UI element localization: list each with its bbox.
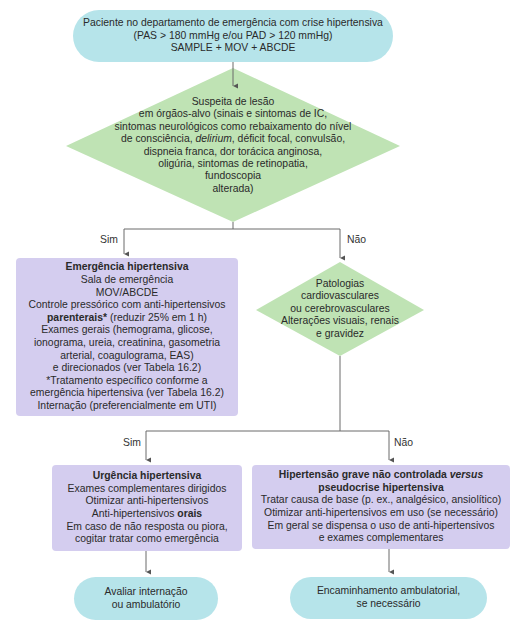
severe-title-line2: pseudocrise hipertensiva (318, 482, 443, 495)
severe-title-versus: versus (450, 469, 484, 480)
decision1-no-label: Não (347, 234, 366, 245)
emergency-line: parenterais* (reduzir 25% em 1 h) (47, 312, 207, 325)
emergency-line: Internação (preferencialmente em UTI) (37, 400, 216, 413)
urgency-title: Urgência hipertensiva (93, 470, 202, 483)
urgency-oral: orais (177, 508, 202, 519)
emergency-title: Emergência hipertensiva (65, 261, 188, 274)
urgency-line: Exames complementares dirigidos (68, 483, 227, 496)
end-right-line: Encaminhamento ambulatorial, (317, 585, 460, 598)
severe-line: Tratar causa de base (p. ex., analgésico… (261, 494, 501, 507)
severe-title-fragment: Hipertensão grave não controlada (279, 469, 450, 480)
decision2-no-label: Não (394, 437, 413, 448)
decision1-yes-label: Sim (100, 234, 118, 245)
decision1-line: de consciência, delirium, déficit focal,… (83, 133, 383, 145)
decision1-line: sintomas neurológicos como rebaixamento … (83, 121, 383, 133)
emergency-line: Controle pressórico com anti-hipertensiv… (29, 299, 226, 312)
start-line-1: Paciente no departamento de emergência c… (83, 17, 383, 30)
severe-line: Em geral se dispensa o uso de anti-hiper… (268, 520, 495, 533)
emergency-fragment: (reduzir 25% em 1 h) (107, 312, 207, 323)
decision1-line: dispneia franca, dor torácica anginosa, (83, 146, 383, 158)
end-node-admission: Avaliar internação ou ambulatório (74, 577, 218, 620)
decision2-line: Alterações visuais, renais (270, 315, 410, 327)
decision2-line: e gravidez (270, 328, 410, 340)
emergency-line: Sala de emergência (81, 274, 173, 287)
decision1-line: oligúria, sintomas de retinopatia, (83, 158, 383, 170)
urgency-line: Em caso de não resposta ou piora, (66, 521, 227, 534)
end-right-line: se necessário (356, 598, 420, 611)
end-left-line: Avaliar internação (105, 586, 188, 599)
start-line-3: SAMPLE + MOV + ABCDE (171, 42, 296, 55)
start-node: Paciente no departamento de emergência c… (73, 10, 393, 62)
urgency-line: Otimizar anti-hipertensivos (86, 495, 209, 508)
emergency-line: *Tratamento específico conforme a (46, 375, 207, 388)
emergency-parenteral: parenterais* (47, 312, 107, 323)
decision2-line: ou cerebrovasculares (270, 303, 410, 315)
severe-hypertension-box: Hipertensão grave não controlada versus … (252, 465, 510, 549)
decision1-text: Suspeita de lesão em órgãos-alvo (sinais… (83, 96, 383, 195)
decision1-fragment: de consciência, (121, 133, 193, 144)
decision2-yes-label: Sim (123, 437, 141, 448)
start-line-2: (PAS > 180 mmHg e/ou PAD > 120 mmHg) (134, 30, 333, 43)
emergency-line: ionograma, ureia, creatinina, gasometria (34, 337, 220, 350)
severe-line: e exames complementares (319, 532, 444, 545)
urgency-line: cogitar tratar como emergência (75, 533, 219, 546)
decision1-line: Suspeita de lesão (83, 96, 383, 108)
emergency-box: Emergência hipertensiva Sala de emergênc… (16, 258, 238, 416)
decision1-line: alterada) (83, 183, 383, 195)
decision1-line: em órgãos-alvo (sinais e sintomas de IC, (83, 108, 383, 120)
decision2-text: Patologias cardiovasculares ou cerebrova… (270, 278, 410, 340)
emergency-line: e direcionados (ver Tabela 16.2) (53, 362, 201, 375)
decision1-fragment: , déficit focal, convulsão, (232, 133, 345, 144)
severe-line: Otimizar anti-hipertensivos em uso (se n… (264, 507, 498, 520)
end-left-line: ou ambulatório (112, 599, 181, 612)
emergency-line: arterial, coagulograma, EAS) (60, 350, 193, 363)
end-node-referral: Encaminhamento ambulatorial, se necessár… (290, 577, 487, 619)
decision2-line: Patologias (270, 278, 410, 290)
emergency-line: Exames gerais (hemograma, glicose, (41, 324, 213, 337)
emergency-line: emergência hipertensiva (ver Tabela 16.2… (30, 387, 224, 400)
decision1-line: fundoscopia (83, 170, 383, 182)
urgency-line: Anti-hipertensivos orais (92, 508, 202, 521)
decision1-delirium: delirium (195, 133, 231, 144)
urgency-box: Urgência hipertensiva Exames complementa… (52, 465, 242, 551)
decision2-line: cardiovasculares (270, 290, 410, 302)
severe-title: Hipertensão grave não controlada versus (279, 469, 483, 482)
emergency-line: MOV/ABCDE (96, 287, 158, 300)
urgency-fragment: Anti-hipertensivos (92, 508, 177, 519)
